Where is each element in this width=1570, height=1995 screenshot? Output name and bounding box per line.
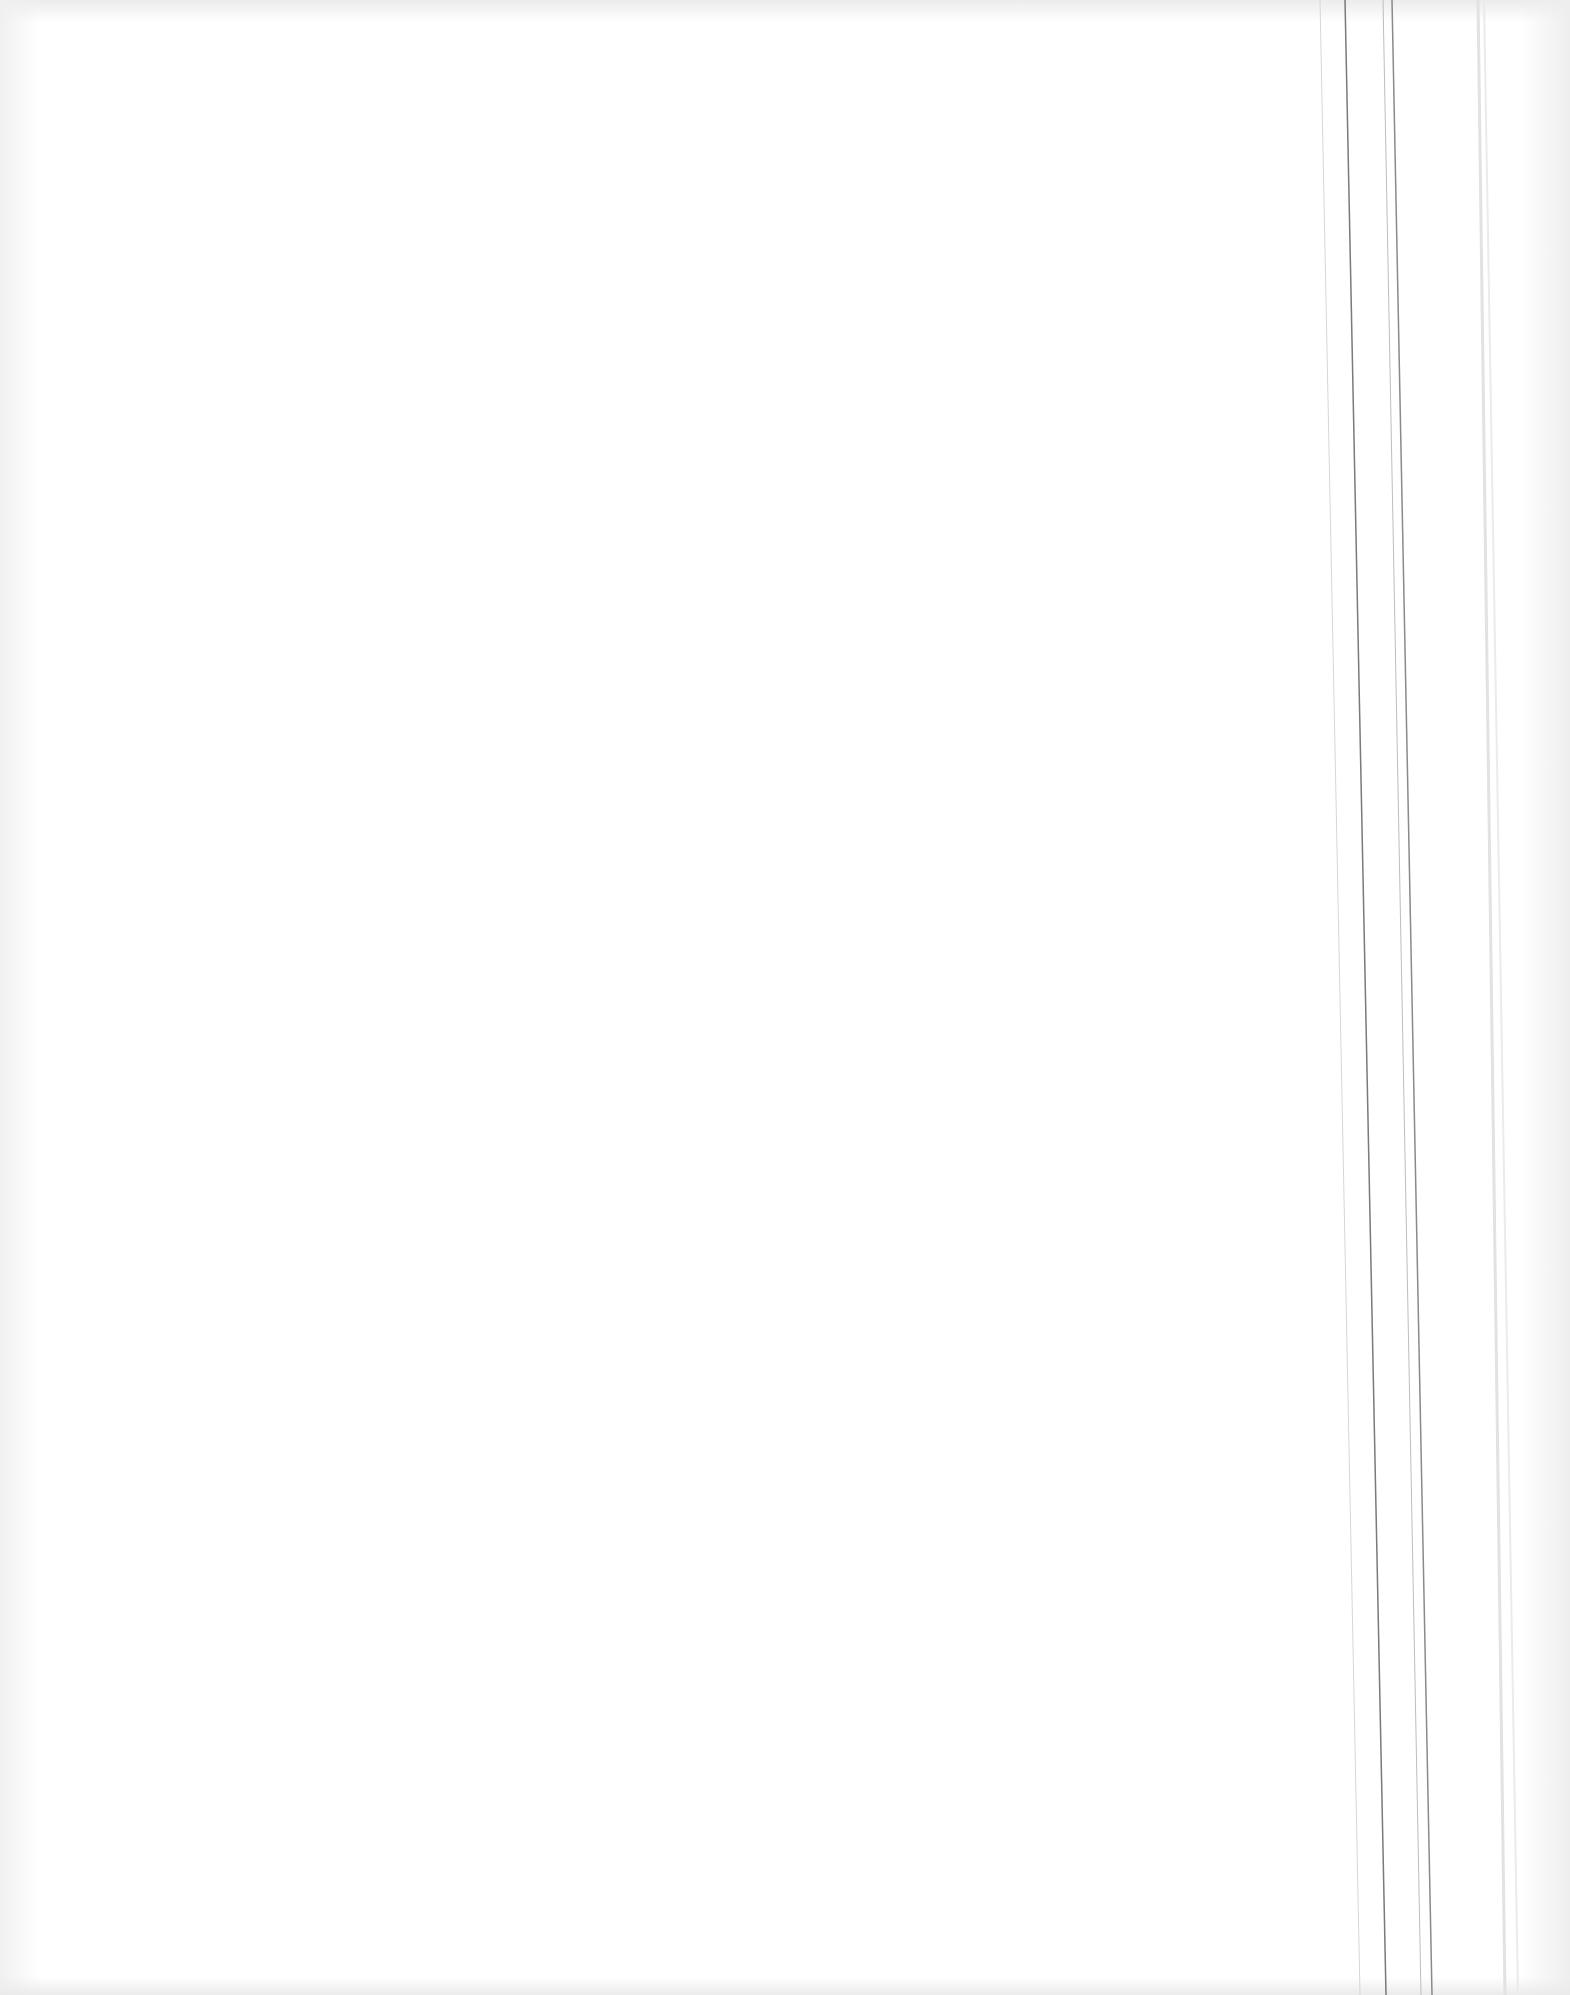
rule-line (1392, 0, 1432, 1995)
rule-line (1345, 0, 1386, 1995)
rule-line (1383, 0, 1421, 1995)
vertical-rule-lines (0, 0, 1570, 1995)
blank-page (0, 0, 1570, 1995)
rule-line (1320, 0, 1360, 1995)
